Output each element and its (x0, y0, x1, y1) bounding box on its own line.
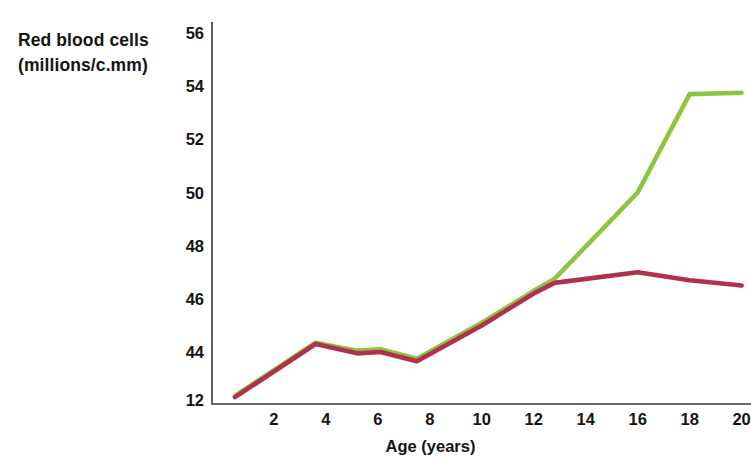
series-line-red (235, 272, 742, 397)
x-axis-title: Age (years) (0, 437, 751, 456)
chart-container: Red blood cells (millions/c.mm) 12444648… (0, 0, 751, 470)
x-axis-title-text: Age (years) (386, 437, 476, 455)
plot-area (0, 0, 751, 470)
axis-lines (212, 22, 751, 404)
series-line-green (235, 93, 742, 396)
